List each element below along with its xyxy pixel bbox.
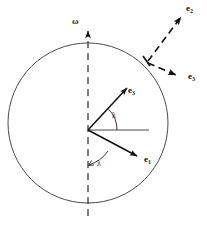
vector-diagram-svg <box>0 0 207 227</box>
e2-outer-vector <box>148 17 181 61</box>
lambda-upper-label: λ <box>112 112 116 120</box>
lambda-lower-label: λ <box>97 160 101 168</box>
e1-inner-label-sub: 1 <box>148 159 151 165</box>
e3-inner-label: e3 <box>128 86 135 95</box>
e3-outer-vector <box>148 63 176 75</box>
e3-inner-vector <box>88 88 127 130</box>
e3-outer-label-sub: 3 <box>192 76 195 82</box>
e2-outer-label: e2 <box>186 4 193 13</box>
e3-outer-label: e3 <box>188 72 195 81</box>
omega-label: ω <box>72 17 79 26</box>
e1-inner-vector <box>88 130 137 156</box>
e1-inner-label: e1 <box>144 155 151 164</box>
e3-inner-label-sub: 3 <box>132 90 135 96</box>
figure-canvas: ω e2 e3 e3 e1 λ λ <box>0 0 207 227</box>
e2-outer-label-sub: 2 <box>190 8 193 14</box>
